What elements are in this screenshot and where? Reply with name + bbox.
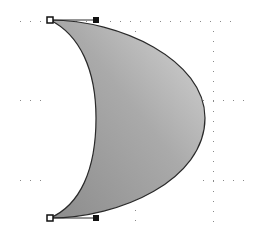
crescent-shape[interactable]	[50, 20, 205, 218]
canvas-svg	[0, 0, 257, 235]
anchor-handle-top[interactable]	[47, 17, 53, 23]
control-handle-top[interactable]	[93, 17, 99, 23]
control-handle-bottom[interactable]	[93, 215, 99, 221]
drawing-canvas[interactable]	[0, 0, 257, 235]
anchor-handle-bottom[interactable]	[47, 215, 53, 221]
